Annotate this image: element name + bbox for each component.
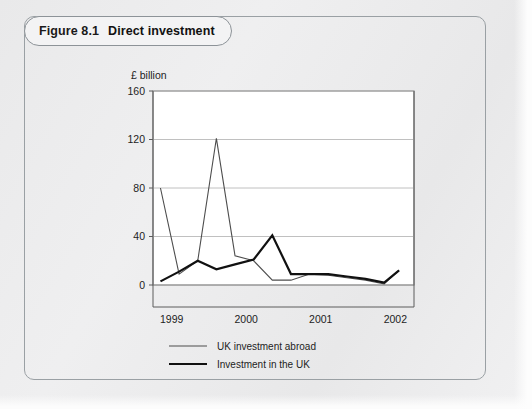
page-edge-shadow <box>0 395 532 409</box>
ytick-label-160: 160 <box>127 85 145 97</box>
ytick-label-40: 40 <box>133 230 145 242</box>
figure-title-pill: Figure 8.1 Direct investment <box>24 16 232 46</box>
ytick-label-0: 0 <box>139 279 145 291</box>
xtick-label-2002: 2002 <box>384 313 408 325</box>
ytick-label-120: 120 <box>127 133 145 145</box>
legend-label-1: Investment in the UK <box>217 359 310 370</box>
direct-investment-line-chart: 04080120160£ billion1999200020012002UK i… <box>24 16 486 380</box>
legend-label-0: UK investment abroad <box>217 341 316 352</box>
page-background: 04080120160£ billion1999200020012002UK i… <box>0 0 532 409</box>
chart-area: 04080120160£ billion1999200020012002UK i… <box>24 16 486 380</box>
xtick-label-1999: 1999 <box>160 313 184 325</box>
xtick-label-2000: 2000 <box>235 313 259 325</box>
xtick-label-2001: 2001 <box>309 313 333 325</box>
ytick-label-80: 80 <box>133 182 145 194</box>
figure-number: Figure 8.1 <box>39 24 99 38</box>
y-axis-unit-label: £ billion <box>131 69 167 81</box>
page-title: Direct investment <box>108 24 215 38</box>
